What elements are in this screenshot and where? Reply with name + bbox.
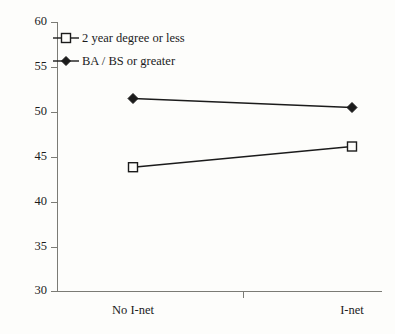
- legend-item-ba-bs: BA / BS or greater: [53, 54, 185, 68]
- series-2-year-degree-or-less: [129, 142, 357, 172]
- legend: 2 year degree or less BA / BS or greater: [53, 31, 185, 68]
- plot-area: 60 55 50 45 40 35 30 No I-net I-net: [0, 0, 395, 334]
- open-square-marker-icon: [53, 32, 79, 44]
- filled-diamond-marker-icon: [53, 55, 79, 67]
- chart-screenshot: 60 55 50 45 40 35 30 No I-net I-net: [0, 0, 395, 334]
- legend-item-2-year-degree: 2 year degree or less: [53, 31, 185, 45]
- legend-label: BA / BS or greater: [82, 55, 175, 68]
- legend-label: 2 year degree or less: [82, 32, 185, 45]
- series-ba-bs-or-greater: [128, 94, 357, 113]
